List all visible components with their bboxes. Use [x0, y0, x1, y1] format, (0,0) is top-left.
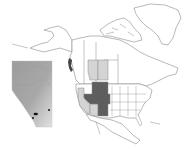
occurrence-point — [35, 113, 38, 116]
alaska — [30, 26, 72, 52]
alberta-inset — [12, 61, 52, 127]
occurrence-point — [48, 109, 50, 111]
occurrence-point — [32, 117, 34, 119]
saskatchewan-light — [98, 60, 108, 80]
north-america-map — [0, 0, 185, 152]
arizona-light — [90, 104, 98, 116]
distribution-map — [0, 0, 185, 152]
mexico — [86, 114, 140, 144]
alberta-light — [88, 60, 98, 80]
